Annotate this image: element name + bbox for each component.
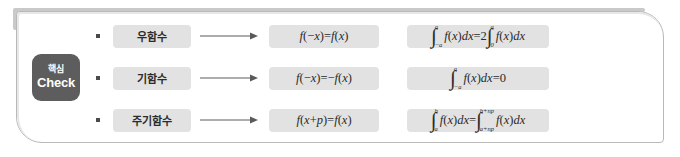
integral-formula-box: ∫ a−a f(x)dx=2 ∫ a0 f(x)dx: [407, 25, 549, 48]
bullet-icon: [96, 76, 100, 80]
term-label-box: 주기함수: [113, 109, 191, 132]
integral-formula: ∫ a−a f(x)dx=0: [450, 68, 506, 89]
term-label-box: 기함수: [113, 67, 191, 90]
summary-row: 기함수 f(−x)=−f(x) ∫ a−a f(x)dx=0: [96, 66, 566, 90]
summary-row: 주기함수 f(x+p)=f(x) ∫ ba f(x)dx= ∫: [96, 108, 566, 132]
property-formula: f(−x)=f(x): [300, 29, 349, 44]
term-label: 우함수: [137, 28, 166, 44]
integral-formula-box: ∫ ba f(x)dx= ∫ b+npa+np f(x)dx: [407, 109, 549, 132]
right-arrow-icon: [200, 114, 260, 126]
property-formula-box: f(−x)=−f(x): [269, 67, 379, 90]
check-badge-korean-label: 핵심: [48, 65, 64, 75]
integral-formula: ∫ a−a f(x)dx=2 ∫ a0 f(x)dx: [431, 26, 525, 47]
term-label-box: 우함수: [113, 25, 191, 48]
term-label: 기함수: [137, 70, 166, 86]
integral-formula-box: ∫ a−a f(x)dx=0: [407, 67, 549, 90]
check-badge-english-label: Check: [37, 76, 75, 90]
bullet-icon: [96, 34, 100, 38]
check-summary-figure: 핵심 Check 우함수 f(−x)=f(x) ∫ a−a: [0, 0, 680, 157]
property-formula-box: f(x+p)=f(x): [269, 109, 379, 132]
right-arrow-icon: [200, 72, 260, 84]
property-formula: f(x+p)=f(x): [296, 113, 351, 128]
term-label: 주기함수: [132, 112, 171, 128]
property-formula-box: f(−x)=f(x): [269, 25, 379, 48]
right-arrow-icon: [200, 30, 260, 42]
property-formula: f(−x)=−f(x): [296, 71, 352, 86]
check-badge: 핵심 Check: [32, 54, 80, 101]
integral-formula: ∫ ba f(x)dx= ∫ b+npa+np f(x)dx: [431, 110, 525, 131]
bullet-icon: [96, 118, 100, 122]
summary-row: 우함수 f(−x)=f(x) ∫ a−a f(x)dx=2 ∫: [96, 24, 566, 48]
